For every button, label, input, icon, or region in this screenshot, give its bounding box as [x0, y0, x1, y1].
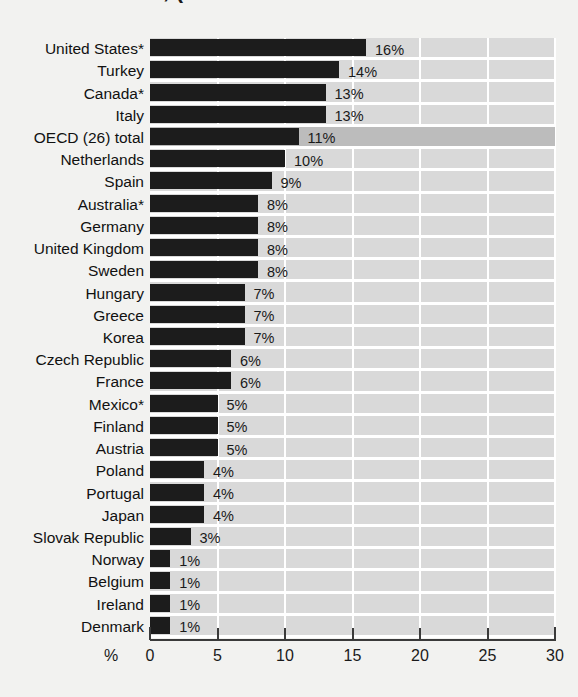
- x-tick-25: [487, 628, 489, 639]
- bar-value-label: 4%: [213, 465, 234, 480]
- bar[interactable]: [150, 528, 191, 545]
- bar-value-label: 5%: [227, 443, 248, 458]
- x-tick-label-30: 30: [546, 647, 564, 665]
- x-tick-30: [554, 627, 556, 640]
- bar[interactable]: [150, 217, 258, 234]
- bar-value-label: 7%: [254, 309, 275, 324]
- category-label: Slovak Republic: [0, 530, 144, 546]
- x-axis-line: [150, 639, 556, 641]
- category-label: Greece: [0, 308, 144, 324]
- category-label: Korea: [0, 330, 144, 346]
- chart-row: 13%: [150, 82, 555, 104]
- chart-row: 11%: [150, 127, 555, 149]
- chart-row: 5%: [150, 416, 555, 438]
- chart-row: 9%: [150, 171, 555, 193]
- x-tick-label-0: 0: [146, 647, 155, 665]
- category-label: Czech Republic: [0, 352, 144, 368]
- bar[interactable]: [150, 395, 218, 412]
- chart-row: 14%: [150, 60, 555, 82]
- bar-value-label: 8%: [267, 220, 288, 235]
- category-label: Australia*: [0, 197, 144, 213]
- bar-value-label: 8%: [267, 265, 288, 280]
- chart-row: 6%: [150, 371, 555, 393]
- chart-row: 4%: [150, 482, 555, 504]
- bar-value-label: 6%: [240, 354, 261, 369]
- x-tick-5: [217, 628, 219, 639]
- bar[interactable]: [150, 328, 245, 345]
- x-tick-label-20: 20: [411, 647, 429, 665]
- bar[interactable]: [150, 39, 366, 56]
- bar[interactable]: [150, 572, 170, 589]
- bar-value-label: 16%: [375, 43, 404, 58]
- chart-row: 16%: [150, 38, 555, 60]
- chart-row: 3%: [150, 527, 555, 549]
- bar-value-label: 1%: [179, 576, 200, 591]
- bar[interactable]: [150, 284, 245, 301]
- bar-value-label: 4%: [213, 509, 234, 524]
- bar[interactable]: [150, 550, 170, 567]
- bar-value-label: 5%: [227, 398, 248, 413]
- category-label: Belgium: [0, 574, 144, 590]
- bar-chart: 16%14%13%13%11%10%9%8%8%8%8%7%7%7%6%6%5%…: [0, 0, 578, 697]
- category-label: Portugal: [0, 486, 144, 502]
- bar[interactable]: [150, 239, 258, 256]
- bar[interactable]: [150, 461, 204, 478]
- bar[interactable]: [150, 617, 170, 634]
- category-label: Turkey: [0, 63, 144, 79]
- category-label: Mexico*: [0, 397, 144, 413]
- bar[interactable]: [150, 372, 231, 389]
- bar-value-label: 8%: [267, 243, 288, 258]
- bar[interactable]: [150, 128, 299, 145]
- bar[interactable]: [150, 306, 245, 323]
- bar-value-label: 7%: [254, 287, 275, 302]
- bar[interactable]: [150, 61, 339, 78]
- chart-row: 10%: [150, 149, 555, 171]
- bar-value-label: 4%: [213, 487, 234, 502]
- x-tick-20: [419, 628, 421, 639]
- chart-row: 7%: [150, 282, 555, 304]
- bar[interactable]: [150, 350, 231, 367]
- category-label: Hungary: [0, 286, 144, 302]
- bar[interactable]: [150, 484, 204, 501]
- category-label: United States*: [0, 41, 144, 57]
- bar-value-label: 13%: [335, 87, 364, 102]
- chart-row: 1%: [150, 571, 555, 593]
- bar-value-label: 10%: [294, 154, 323, 169]
- bar-value-label: 5%: [227, 420, 248, 435]
- bar[interactable]: [150, 195, 258, 212]
- category-label: Denmark: [0, 619, 144, 635]
- category-label: Poland: [0, 463, 144, 479]
- category-label: Austria: [0, 441, 144, 457]
- bar[interactable]: [150, 417, 218, 434]
- x-axis-unit-label: %: [104, 647, 118, 665]
- bar[interactable]: [150, 84, 326, 101]
- category-label: Canada*: [0, 86, 144, 102]
- chart-row: 4%: [150, 505, 555, 527]
- bar[interactable]: [150, 439, 218, 456]
- chart-row: 13%: [150, 105, 555, 127]
- category-label: France: [0, 374, 144, 390]
- chart-row: 5%: [150, 438, 555, 460]
- chart-row: 8%: [150, 216, 555, 238]
- bar-value-label: 13%: [335, 109, 364, 124]
- bar[interactable]: [150, 595, 170, 612]
- bar-value-label: 1%: [179, 620, 200, 635]
- bar[interactable]: [150, 261, 258, 278]
- category-label: Norway: [0, 552, 144, 568]
- bar-value-label: 1%: [179, 554, 200, 569]
- x-tick-15: [352, 628, 354, 639]
- chart-row: 8%: [150, 260, 555, 282]
- bar[interactable]: [150, 506, 204, 523]
- chart-row: 7%: [150, 305, 555, 327]
- x-tick-label-25: 25: [479, 647, 497, 665]
- bar[interactable]: [150, 150, 285, 167]
- category-label: Germany: [0, 219, 144, 235]
- bar[interactable]: [150, 172, 272, 189]
- chart-row: 8%: [150, 194, 555, 216]
- category-label: Spain: [0, 174, 144, 190]
- x-tick-label-10: 10: [276, 647, 294, 665]
- chart-row: 1%: [150, 549, 555, 571]
- x-tick-label-15: 15: [344, 647, 362, 665]
- bar-value-label: 9%: [281, 176, 302, 191]
- bar[interactable]: [150, 106, 326, 123]
